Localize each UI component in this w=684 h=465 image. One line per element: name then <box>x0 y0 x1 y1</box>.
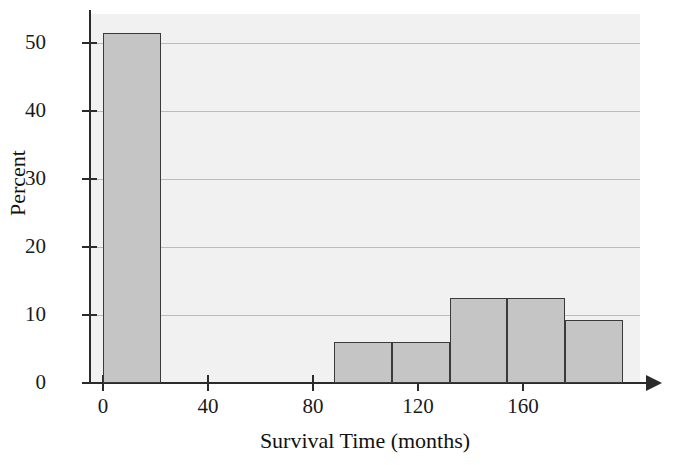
x-axis-arrow-icon <box>646 375 662 391</box>
y-axis-tick-label: 10 <box>10 304 46 325</box>
y-axis-tick <box>82 246 97 248</box>
y-axis-tick <box>82 382 97 384</box>
histogram-bar <box>334 342 392 383</box>
x-axis-tick-label: 0 <box>73 396 133 417</box>
y-axis-tick-label: 50 <box>10 32 46 53</box>
y-axis-tick-label: 0 <box>10 372 46 393</box>
gridline <box>90 247 640 248</box>
y-axis-line <box>89 10 91 384</box>
x-axis-tick <box>312 375 314 391</box>
x-axis-tick <box>207 375 209 391</box>
histogram-bar <box>450 298 508 383</box>
histogram-bar <box>392 342 450 383</box>
y-axis-tick <box>82 314 97 316</box>
x-axis-tick-label: 160 <box>493 396 553 417</box>
y-axis-title: Percent <box>5 103 31 263</box>
x-axis-tick-label: 40 <box>178 396 238 417</box>
x-axis-tick-label: 120 <box>388 396 448 417</box>
histogram-figure: 01020304050 04080120160 Percent Survival… <box>0 0 684 465</box>
x-axis-title: Survival Time (months) <box>90 428 640 454</box>
gridline <box>90 43 640 44</box>
y-axis-tick <box>82 178 97 180</box>
y-axis-tick <box>82 42 97 44</box>
histogram-bar <box>507 298 565 383</box>
gridline <box>90 111 640 112</box>
histogram-bar <box>565 320 623 383</box>
histogram-bar <box>103 33 161 383</box>
y-axis-tick <box>82 110 97 112</box>
x-axis-tick-label: 80 <box>283 396 343 417</box>
gridline <box>90 179 640 180</box>
